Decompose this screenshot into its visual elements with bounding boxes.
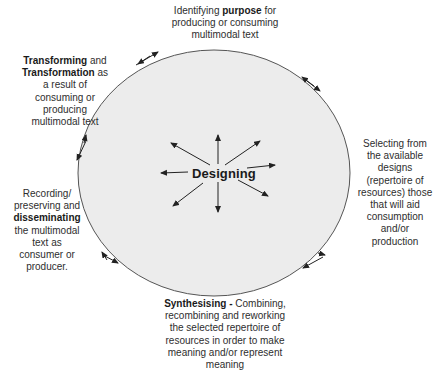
- node-bottom-bold: Synthesising -: [164, 298, 235, 309]
- node-top-left-mid: and: [87, 55, 106, 66]
- node-top-left: Transforming and Transformation as a res…: [20, 55, 110, 128]
- node-top-bold: purpose: [222, 5, 261, 16]
- node-left-bold: disseminating: [13, 212, 80, 223]
- node-left-post: the multimodal text as consumer or produ…: [14, 225, 79, 273]
- node-left: Recording/ preserving and disseminating …: [12, 188, 82, 273]
- node-top: Identifying purpose for producing or con…: [160, 5, 290, 42]
- node-right: Selecting from the available designs (re…: [357, 138, 433, 248]
- node-top-left-bold2: Transformation: [22, 67, 95, 78]
- center-label-designing: Designing: [192, 166, 256, 181]
- node-left-pre: Recording/ preserving and: [14, 188, 80, 211]
- node-top-left-bold1: Transforming: [23, 55, 87, 66]
- node-top-pre: Identifying: [174, 5, 222, 16]
- node-bottom: Synthesising - Combining, recombining an…: [160, 298, 290, 371]
